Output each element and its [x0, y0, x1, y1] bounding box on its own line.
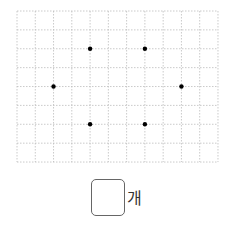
- answer-input-box[interactable]: [91, 179, 125, 216]
- grid-dot: [143, 47, 147, 51]
- grid-dot: [179, 84, 183, 88]
- grid-dot: [143, 122, 147, 126]
- grid-dot: [88, 122, 92, 126]
- dot-grid-diagram: [0, 0, 229, 170]
- unit-label: 개: [127, 189, 142, 209]
- grid-dot: [88, 47, 92, 51]
- grid-dot: [51, 84, 55, 88]
